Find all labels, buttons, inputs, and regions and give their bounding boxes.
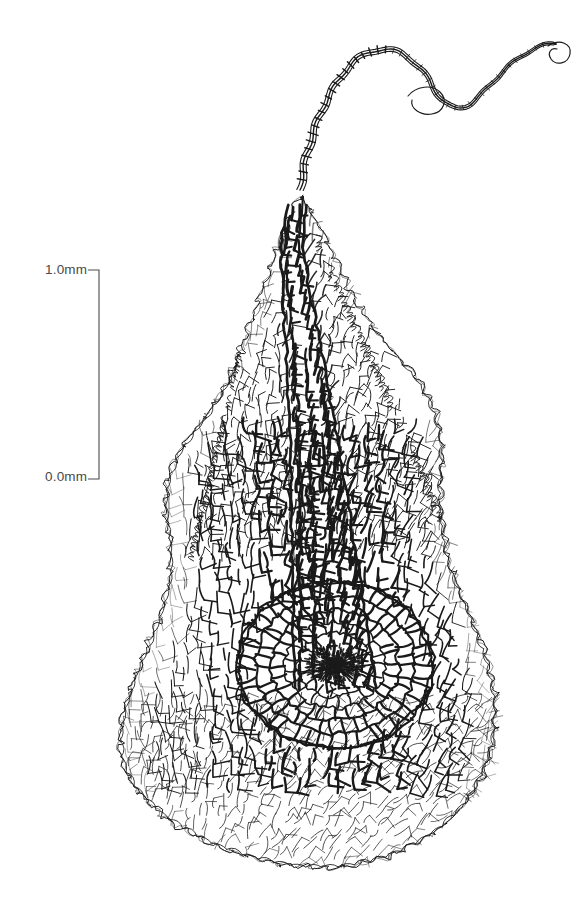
scale-bar-bottom-label: 0.0mm (45, 469, 87, 484)
rosette-core (321, 656, 348, 674)
moss-leaf-illustration (0, 0, 585, 905)
scale-bar-top-label: 1.0mm (45, 262, 87, 277)
illustration-background (0, 0, 585, 905)
figure-plate (0, 0, 585, 905)
